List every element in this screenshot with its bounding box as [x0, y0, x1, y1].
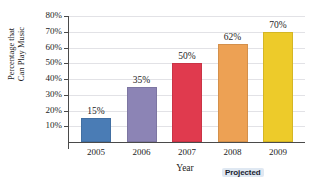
- bar-value-label: 35%: [118, 75, 166, 85]
- x-axis-tick-label: 2007: [163, 147, 211, 157]
- y-axis-title-line-1: Percentage that: [6, 2, 16, 106]
- bar: 15%: [81, 16, 111, 142]
- y-axis-tick: [64, 32, 68, 33]
- y-axis-tick-label: 70%: [28, 27, 62, 36]
- bar: 35%: [127, 16, 157, 142]
- y-axis-tick-label: 30%: [28, 90, 62, 99]
- bar-value-label: 50%: [163, 51, 211, 61]
- bar: 50%: [172, 16, 202, 142]
- y-axis-tick-label: 80%: [28, 11, 62, 20]
- y-axis-line: [68, 16, 69, 149]
- y-axis-tick-label: 40%: [28, 74, 62, 83]
- y-axis-tick-label: 50%: [28, 58, 62, 67]
- bar-value-label: 70%: [254, 20, 302, 30]
- bar-rect: [172, 63, 202, 142]
- y-axis-tick-label: 20%: [28, 106, 62, 115]
- x-axis-line: [68, 142, 305, 143]
- x-axis-title: Year: [150, 163, 220, 173]
- y-axis-title: Percentage that Can Play Music: [6, 2, 26, 106]
- x-axis-tick-label: 2006: [118, 147, 166, 157]
- y-axis-tick: [64, 126, 68, 127]
- y-axis-tick: [64, 111, 68, 112]
- bar-value-label: 15%: [72, 106, 120, 116]
- bar-chart: Percentage that Can Play Music 10%20%30%…: [0, 0, 313, 183]
- bar-rect: [263, 32, 293, 142]
- bar-rect: [81, 118, 111, 142]
- bar: 70%: [263, 16, 293, 142]
- y-axis-tick: [64, 16, 68, 17]
- bar-rect: [127, 87, 157, 142]
- y-axis-tick-label: 10%: [28, 121, 62, 130]
- plot-area: 10%20%30%40%50%60%70%80% 15%35%50%62%70%…: [68, 16, 305, 142]
- projected-badge: Projected: [222, 168, 264, 177]
- chart-title: [40, 0, 280, 2]
- y-axis-tick-label: 60%: [28, 43, 62, 52]
- x-axis-tick-label: 2005: [72, 147, 120, 157]
- y-axis-title-line-2: Can Play Music: [16, 2, 26, 106]
- y-axis-tick: [64, 63, 68, 64]
- bar-rect: [218, 44, 248, 142]
- y-axis-tick: [64, 79, 68, 80]
- x-axis-tick-label: 2008: [209, 147, 257, 157]
- bar: 62%: [218, 16, 248, 142]
- bar-value-label: 62%: [209, 32, 257, 42]
- x-axis-tick-label: 2009: [254, 147, 302, 157]
- y-axis-tick: [64, 95, 68, 96]
- y-axis-tick: [64, 48, 68, 49]
